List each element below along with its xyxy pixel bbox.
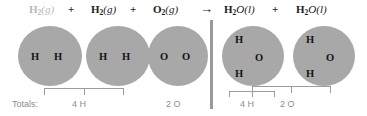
equation-term-h2o-l-2: H2O(l) — [296, 3, 327, 19]
atom-label-o: O — [182, 51, 190, 62]
reactant-product-divider — [210, 20, 213, 109]
atom-label-o: O — [326, 52, 334, 63]
totals-label: Totals: — [12, 99, 38, 110]
equation-plus-3: + — [272, 3, 278, 16]
equation-term-formula: H — [91, 3, 100, 15]
total-reactant-oxygen: 2 O — [166, 99, 181, 110]
equation-term-h2o-l-1: H2O(l) — [224, 3, 255, 19]
equation-term-formula: O — [153, 3, 162, 15]
equation-term-state: (g) — [165, 3, 178, 15]
atom-label-h: H — [306, 68, 314, 79]
atom-label-h: H — [99, 51, 107, 62]
equation-term-state: O(l) — [236, 3, 254, 15]
water-molecule-2: H O H — [293, 26, 355, 86]
oxygen-molecule: O O — [148, 26, 208, 86]
atom-label-h: H — [122, 51, 130, 62]
reaction-arrow-icon: → — [200, 2, 213, 15]
atom-label-o: O — [160, 51, 168, 62]
bracket-tick-reactant-hydrogen — [84, 88, 85, 95]
equation-term-h2-g-1: H2(g) — [29, 3, 54, 19]
equation-term-state: O(l) — [308, 3, 326, 15]
atom-label-h: H — [31, 51, 39, 62]
atom-label-h: H — [235, 68, 243, 79]
equation-term-formula: H — [224, 3, 233, 15]
equation-term-o2-g: O2(g) — [153, 3, 178, 19]
total-reactant-hydrogen: 4 H — [72, 99, 86, 110]
atom-label-o: O — [255, 52, 263, 63]
atom-label-h: H — [54, 51, 62, 62]
chemistry-equation-diagram: H2(g) + H2(g) + O2(g) → H2O(l) + H2O(l) … — [0, 0, 367, 116]
equation-term-h2-g-2: H2(g) — [91, 3, 116, 19]
equation-plus-1: + — [68, 3, 74, 16]
atom-label-h: H — [306, 34, 314, 45]
hydrogen-molecule-1: H H — [18, 26, 82, 86]
equation-term-state: (g) — [103, 3, 116, 15]
atom-label-h: H — [235, 34, 243, 45]
equation-plus-2: + — [130, 3, 136, 16]
equation-term-formula: H — [29, 3, 38, 15]
equation-term-formula: H — [296, 3, 305, 15]
equation-term-state: (g) — [41, 3, 54, 15]
bracket-tick-product-oxygen — [291, 86, 292, 93]
total-product-hydrogen: 4 H — [240, 99, 254, 110]
water-molecule-1: H O H — [222, 26, 284, 86]
hydrogen-molecule-2: H H — [86, 26, 150, 86]
total-product-oxygen: 2 O — [280, 99, 295, 110]
